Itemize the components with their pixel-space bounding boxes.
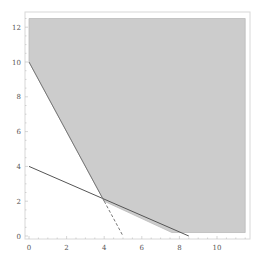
feasible-region-polygon — [29, 19, 245, 233]
y-tick-label: 10 — [12, 59, 21, 67]
x-tick-label: 10 — [213, 244, 222, 252]
y-tick-label: 8 — [17, 93, 21, 101]
x-tick-label: 0 — [27, 244, 31, 252]
y-tick-label: 0 — [17, 233, 21, 241]
x-tick-label: 6 — [140, 244, 145, 252]
x-axis: 0246810 — [27, 236, 245, 252]
y-tick-label: 6 — [17, 128, 22, 136]
y-tick-label: 2 — [17, 198, 21, 206]
y-tick-label: 4 — [17, 163, 22, 171]
feasible-region — [29, 19, 245, 233]
x-tick-label: 8 — [177, 244, 181, 252]
y-tick-label: 12 — [12, 24, 21, 32]
x-tick-label: 4 — [102, 244, 107, 252]
feasible-region-chart: 0246810 024681012 — [0, 0, 263, 265]
x-tick-label: 2 — [64, 244, 68, 252]
y-axis: 024681012 — [12, 19, 28, 241]
